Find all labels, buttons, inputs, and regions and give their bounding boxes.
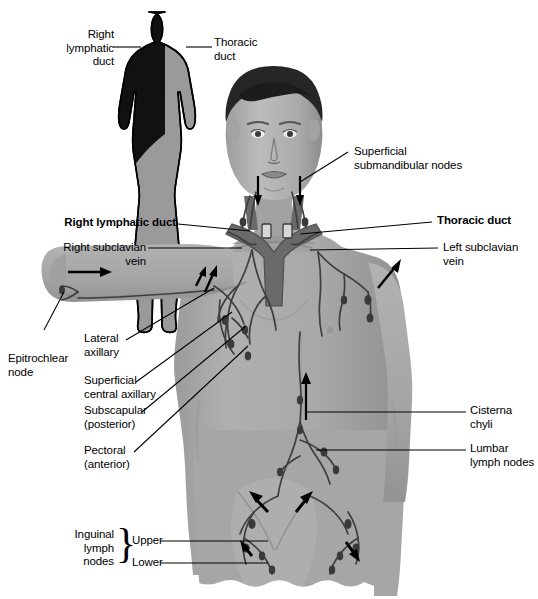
label-cisterna-chyli: Cisterna chyli [470,404,536,431]
label-inguinal-lower: Lower [132,556,186,570]
label-superficial-submandibular-nodes: Superficial submandibular nodes [354,145,514,172]
inset-label-thoracic-duct: Thoracic duct [214,36,292,63]
label-lateral-axillary: Lateral axillary [84,332,168,359]
label-thoracic-duct: Thoracic duct [437,214,537,228]
label-pectoral-anterior: Pectoral (anterior) [84,444,178,471]
label-inguinal-upper: Upper [132,534,186,548]
anatomical-illustration [0,0,538,599]
label-right-subclavian-vein: Right subclavian vein [30,241,146,268]
label-right-lymphatic-duct: Right lymphatic duct [28,216,176,230]
label-subscapular-posterior: Subscapular (posterior) [84,404,188,431]
lymphatic-system-figure: Right lymphatic duct Thoracic duct Super… [0,0,538,599]
label-lumbar-lymph-nodes: Lumbar lymph nodes [470,442,538,469]
label-left-subclavian-vein: Left subclavian vein [443,241,538,268]
label-epitrochlear-node: Epitrochlear node [8,352,94,379]
label-superficial-central-axillary: Superficial central axillary [84,374,188,401]
label-inguinal-lymph-nodes: Inguinal lymph nodes [52,528,114,569]
inset-label-right-lymphatic-duct: Right lymphatic duct [38,28,114,69]
